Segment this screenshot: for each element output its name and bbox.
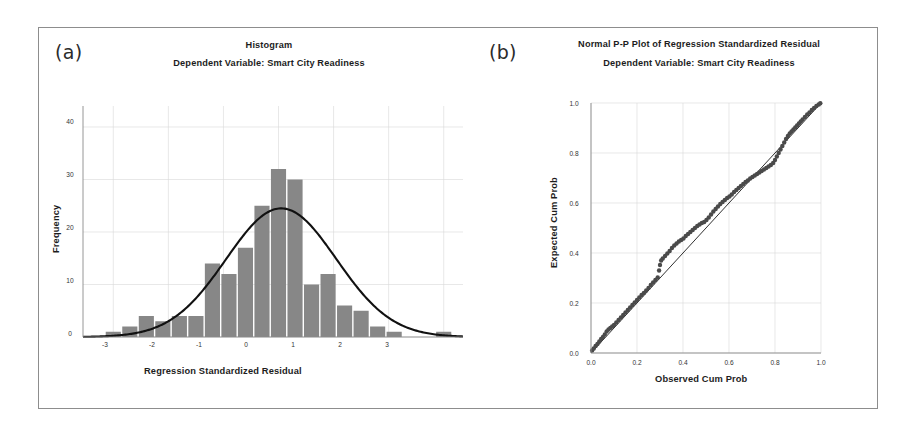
panel-b-pp-plot: (b) Normal P-P Plot of Regression Standa…: [479, 28, 879, 408]
pp-data-point: [656, 275, 660, 279]
histogram-bar: [188, 316, 203, 337]
histogram-bar: [321, 274, 336, 337]
histogram-plot-area: [39, 28, 479, 410]
histogram-bar: [205, 264, 220, 338]
histogram-bar: [221, 274, 236, 337]
pp-data-point: [658, 263, 662, 267]
histogram-bar: [139, 316, 154, 337]
histogram-bar: [287, 180, 302, 338]
figure-frame: (a) Histogram Dependent Variable: Smart …: [38, 27, 878, 409]
pp-plot-area: [479, 28, 879, 410]
pp-data-point: [657, 268, 661, 272]
histogram-bar: [354, 311, 369, 337]
histogram-bar: [387, 332, 402, 337]
panel-a-histogram: (a) Histogram Dependent Variable: Smart …: [39, 28, 479, 408]
histogram-bar: [304, 285, 319, 338]
pp-data-point: [818, 101, 822, 105]
histogram-bar: [238, 248, 253, 337]
histogram-bar: [271, 169, 286, 337]
histogram-bar: [172, 316, 187, 337]
histogram-bar: [254, 206, 269, 337]
histogram-bar: [337, 306, 352, 338]
histogram-bar: [370, 327, 385, 338]
